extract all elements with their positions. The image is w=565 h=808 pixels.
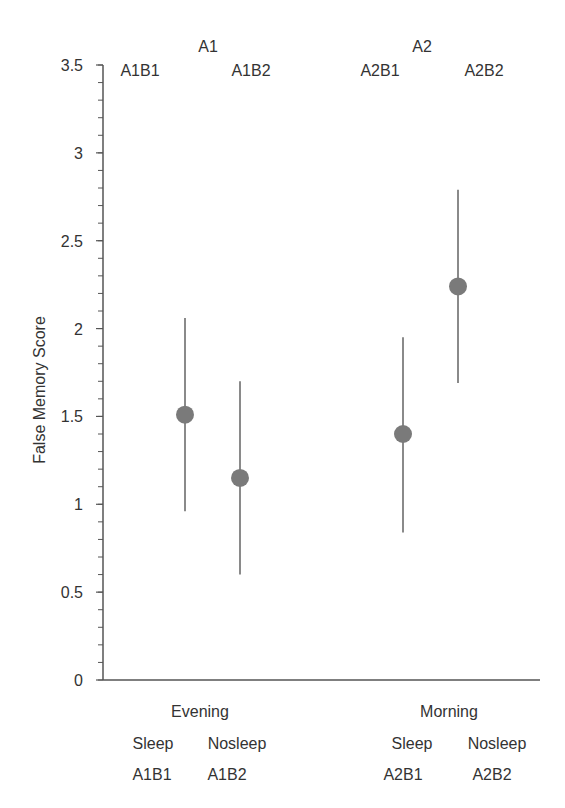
y-tick-label: 2 (74, 321, 83, 338)
data-point-a1b1 (176, 406, 194, 424)
top-code-label: A1B1 (120, 62, 159, 79)
y-tick-label: 3.5 (61, 57, 83, 74)
y-tick-label: 3 (74, 145, 83, 162)
y-tick-label: 0 (74, 672, 83, 689)
y-axis: 00.511.522.533.5 (61, 57, 103, 689)
condition-label: Sleep (133, 735, 174, 752)
condition-label: Nosleep (468, 735, 527, 752)
bottom-code-label: A1B2 (207, 766, 246, 783)
bottom-condition-labels: EveningSleepA1B1NosleepA1B2MorningSleepA… (132, 703, 526, 783)
condition-label: Sleep (392, 735, 433, 752)
condition-label: Nosleep (208, 735, 267, 752)
y-axis-title: False Memory Score (31, 316, 48, 464)
data-series (176, 190, 467, 575)
y-tick-label: 2.5 (61, 233, 83, 250)
bottom-code-label: A2B2 (472, 766, 511, 783)
top-code-label: A2B2 (464, 62, 503, 79)
y-tick-label: 1 (74, 496, 83, 513)
bottom-code-label: A1B1 (132, 766, 171, 783)
data-point-a2b1 (394, 425, 412, 443)
chart: 00.511.522.533.5 A1A1B1A1B2A2A2B1A2B2 Ev… (0, 0, 565, 808)
data-point-a1b2 (231, 469, 249, 487)
group-name-label: Morning (420, 703, 478, 720)
group-top-label: A2 (412, 38, 432, 55)
y-tick-label: 0.5 (61, 584, 83, 601)
group-name-label: Evening (171, 703, 229, 720)
top-code-label: A2B1 (360, 62, 399, 79)
top-code-label: A1B2 (231, 62, 270, 79)
bottom-code-label: A2B1 (383, 766, 422, 783)
top-condition-labels: A1A1B1A1B2A2A2B1A2B2 (120, 38, 503, 79)
y-tick-label: 1.5 (61, 408, 83, 425)
group-top-label: A1 (198, 38, 218, 55)
data-point-a2b2 (449, 277, 467, 295)
